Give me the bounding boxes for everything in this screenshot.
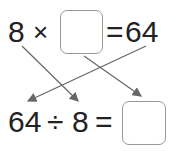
bottom-answer-box[interactable]: [122, 101, 166, 145]
divide-sign: ÷: [47, 107, 63, 137]
top-answer-box[interactable]: [60, 10, 103, 54]
arrow-64-to-64: [28, 46, 146, 101]
arrow-8-to-8: [22, 46, 78, 101]
top-product: 64: [125, 17, 158, 47]
top-multiplicand: 8: [8, 17, 25, 47]
bottom-equals: =: [95, 107, 113, 137]
bottom-divisor: 8: [72, 107, 89, 137]
bottom-dividend: 64: [8, 107, 41, 137]
times-sign: ×: [33, 17, 48, 47]
top-equals: =: [106, 17, 124, 47]
